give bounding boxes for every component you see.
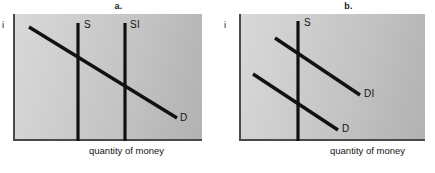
- panel-a: a. i S SI D quantity of money: [0, 0, 217, 173]
- economics-figure: a. i S SI D quantity of money b.: [0, 0, 435, 173]
- panel-b-label-demand: D: [342, 123, 350, 134]
- panel-b-y-axis-label: i: [224, 19, 226, 30]
- panel-a-y-axis-label: i: [2, 19, 4, 30]
- panel-a-x-axis-label: quantity of money: [89, 145, 164, 156]
- panel-b-curve-demand-shifted: [275, 38, 360, 95]
- panel-b: b. i S DI D quantity of money: [218, 0, 435, 173]
- panel-b-x-axis-label: quantity of money: [330, 145, 405, 156]
- panel-b-label-supply: S: [304, 17, 311, 28]
- panel-a-label-supply-shifted: SI: [130, 19, 140, 30]
- panel-a-curve-demand: [29, 27, 177, 118]
- panel-a-label-demand: D: [180, 112, 188, 123]
- panel-b-curve-demand: [253, 74, 338, 130]
- panel-a-label-supply: S: [84, 19, 91, 30]
- panel-b-label-demand-shifted: DI: [364, 88, 375, 99]
